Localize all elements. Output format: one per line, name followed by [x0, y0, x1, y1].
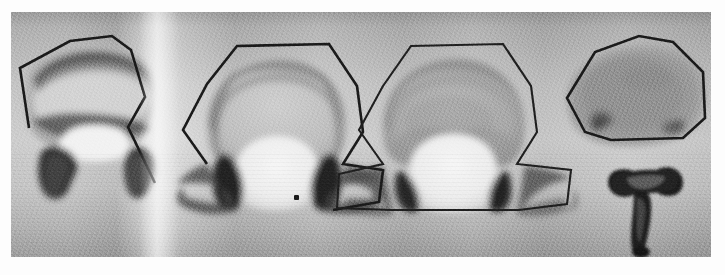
- specimen-4-image: [567, 45, 707, 146]
- figure-page: [0, 0, 725, 275]
- radiograph-plate: [11, 12, 711, 257]
- dust-speck: [294, 195, 299, 200]
- specimen-imagery: [11, 12, 711, 257]
- specimen-3-image: [333, 58, 577, 215]
- detached-neural-arch-image: [608, 167, 683, 257]
